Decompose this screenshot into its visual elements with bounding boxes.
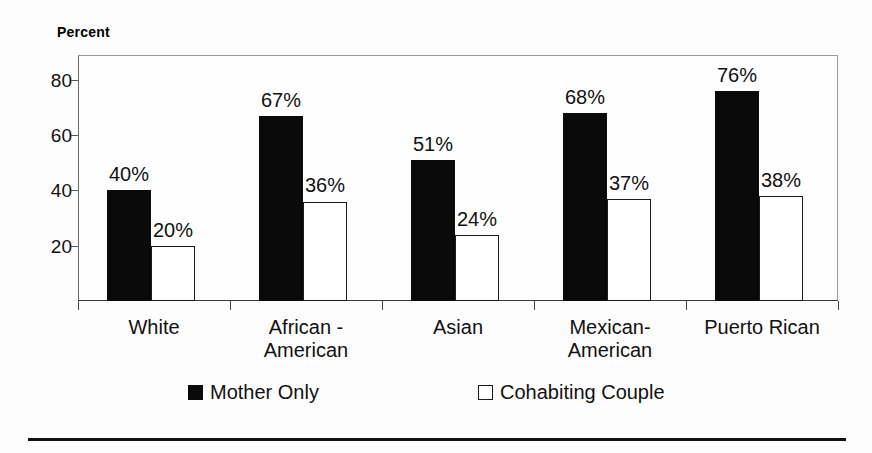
y-axis-tick-label: 60 [28,126,72,145]
x-axis-tick-mark [838,301,839,310]
y-axis-tick-labels: 20406080 [16,0,72,453]
x-axis-category-label: Puerto Rican [670,316,854,339]
bar-mother-only [411,160,455,301]
y-axis-tick-label: 20 [28,236,72,255]
bar-cohabiting-couple [607,199,651,301]
x-axis-tick-mark [686,301,687,310]
x-axis-tick-mark [230,301,231,310]
y-axis-tick-mark [71,80,78,81]
legend-swatch-solid-icon [188,385,203,400]
bar-value-label: 76% [707,65,767,85]
x-axis-tick-mark [382,301,383,310]
bar-cohabiting-couple [455,235,499,301]
bar-cohabiting-couple [759,196,803,301]
bars-layer [78,55,838,301]
x-axis-tick-mark [78,301,79,310]
legend-item[interactable]: Cohabiting Couple [478,381,665,403]
bar-mother-only [563,113,607,301]
bar-mother-only [259,116,303,301]
y-axis-tick-mark [71,135,78,136]
y-axis-tick-mark [71,190,78,191]
bar-value-label: 51% [403,134,463,154]
legend-item[interactable]: Mother Only [188,381,319,403]
chart-legend: Mother OnlyCohabiting Couple [78,381,838,411]
bar-value-label: 67% [251,90,311,110]
bar-value-label: 37% [599,173,659,193]
chart-figure: Percent 20406080 WhiteAfrican - American… [0,0,872,453]
bottom-divider-rule [28,438,846,441]
bar-value-label: 40% [99,164,159,184]
bar-value-label: 24% [447,209,507,229]
x-axis-tick-mark [534,301,535,310]
legend-label: Cohabiting Couple [500,381,665,403]
bar-value-label: 38% [751,170,811,190]
legend-swatch-hollow-icon [478,385,493,400]
bar-value-label: 20% [143,220,203,240]
bar-value-label: 68% [555,87,615,107]
legend-label: Mother Only [210,381,319,403]
bar-cohabiting-couple [303,202,347,302]
bar-mother-only [107,190,151,301]
bar-mother-only [715,91,759,301]
y-axis-tick-label: 80 [28,70,72,89]
bar-value-label: 36% [295,175,355,195]
y-axis-tick-mark [71,246,78,247]
bar-cohabiting-couple [151,246,195,301]
y-axis-tick-label: 40 [28,181,72,200]
